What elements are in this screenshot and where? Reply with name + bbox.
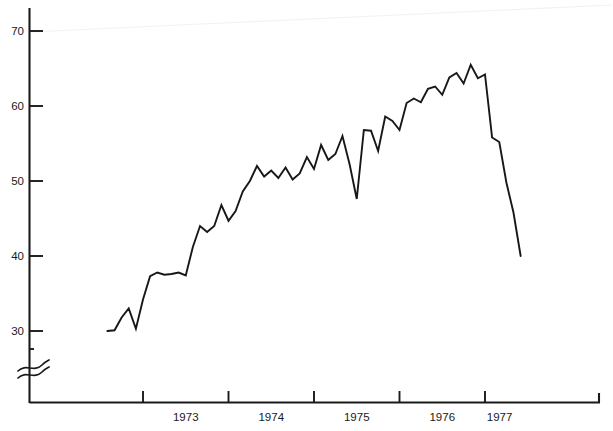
line-chart: 3040506070 19731974197519761977: [0, 0, 613, 431]
x-tick-label-1975: 1975: [344, 411, 370, 423]
x-tick-label-1977: 1977: [487, 411, 513, 423]
y-tick-label-50: 50: [11, 175, 24, 187]
y-axis-ticks: [30, 31, 44, 331]
y-tick-label-30: 30: [11, 325, 24, 337]
x-tick-label-1974: 1974: [258, 411, 284, 423]
y-tick-label-70: 70: [11, 25, 24, 37]
y-tick-label-40: 40: [11, 250, 24, 262]
x-tick-label-1976: 1976: [429, 411, 455, 423]
y-axis-break-symbol: [18, 360, 49, 378]
x-axis-ticks: [143, 391, 485, 403]
y-axis-tick-labels: 3040506070: [11, 25, 24, 337]
x-tick-label-1973: 1973: [173, 411, 199, 423]
scan-artifact-line: [30, 5, 612, 32]
x-axis-tick-labels: 19731974197519761977: [173, 411, 512, 423]
chart-container: 3040506070 19731974197519761977: [0, 0, 613, 431]
data-series-line: [107, 65, 520, 331]
y-tick-label-60: 60: [11, 100, 24, 112]
